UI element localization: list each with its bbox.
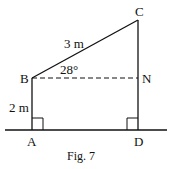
length-ab-label: 2 m	[9, 100, 29, 115]
label-n: N	[142, 71, 152, 86]
length-bc-label: 3 m	[64, 36, 84, 51]
geometry-diagram: C N D A B 3 m 28° 2 m Fig. 7	[0, 0, 178, 169]
angle-label: 28°	[60, 62, 78, 77]
label-c: C	[135, 4, 144, 19]
label-b: B	[20, 71, 29, 86]
figure-caption: Fig. 7	[67, 149, 95, 163]
label-d: D	[134, 134, 143, 149]
label-a: A	[27, 134, 37, 149]
right-angle-marker-d	[127, 118, 138, 130]
figure-7: C N D A B 3 m 28° 2 m Fig. 7	[0, 0, 178, 169]
right-angle-marker-a	[32, 118, 43, 130]
segment-bc	[32, 20, 138, 78]
